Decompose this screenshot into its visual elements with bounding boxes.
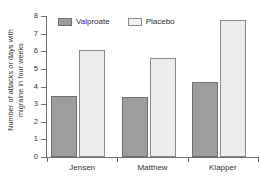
bar-matthew-placebo xyxy=(150,58,176,157)
plot-area xyxy=(47,16,258,157)
y-tick-label-1: 1 xyxy=(18,135,38,143)
y-tick-0 xyxy=(41,157,46,158)
y-tick-3 xyxy=(41,104,46,105)
legend-label-valproate: Valproate xyxy=(76,18,110,26)
y-tick-label-3: 3 xyxy=(18,100,38,108)
y-tick-2 xyxy=(41,122,46,123)
y-axis-title-line-1: Number of attacks or days with xyxy=(6,29,16,131)
bar-jensen-placebo xyxy=(79,50,105,157)
x-axis-separator-2 xyxy=(188,157,189,162)
x-axis-label-matthew: Matthew xyxy=(117,163,187,172)
y-tick-6 xyxy=(41,51,46,52)
x-axis-label-jensen: Jensen xyxy=(47,163,117,172)
y-tick-1 xyxy=(41,139,46,140)
bar-matthew-valproate xyxy=(122,97,148,157)
y-tick-7 xyxy=(41,34,46,35)
y-tick-5 xyxy=(41,69,46,70)
placebo-swatch-icon xyxy=(128,18,142,26)
y-tick-label-4: 4 xyxy=(18,83,38,91)
legend-item-placebo: Placebo xyxy=(128,18,175,26)
y-tick-label-7: 7 xyxy=(18,30,38,38)
x-axis-separator-1 xyxy=(117,157,118,162)
legend-item-valproate: Valproate xyxy=(58,18,110,26)
x-axis-separator-0 xyxy=(47,157,48,162)
y-tick-label-8: 8 xyxy=(18,12,38,20)
x-axis-separator-end xyxy=(258,157,259,162)
y-tick-label-2: 2 xyxy=(18,118,38,126)
legend-label-placebo: Placebo xyxy=(146,18,175,26)
y-tick-4 xyxy=(41,87,46,88)
y-axis-title-line-2: migraine in four weeks xyxy=(15,29,25,131)
x-axis-line xyxy=(46,157,258,158)
bar-jensen-valproate xyxy=(51,96,77,157)
y-tick-label-6: 6 xyxy=(18,47,38,55)
y-tick-label-5: 5 xyxy=(18,65,38,73)
bar-klapper-placebo xyxy=(220,20,246,157)
y-tick-8 xyxy=(41,16,46,17)
chart-legend: Valproate Placebo xyxy=(58,18,175,26)
bar-klapper-valproate xyxy=(192,82,218,157)
y-tick-label-0: 0 xyxy=(18,153,38,161)
bar-chart: Number of attacks or days with migraine … xyxy=(0,0,260,178)
valproate-swatch-icon xyxy=(58,18,72,26)
x-axis-label-klapper: Klapper xyxy=(188,163,258,172)
